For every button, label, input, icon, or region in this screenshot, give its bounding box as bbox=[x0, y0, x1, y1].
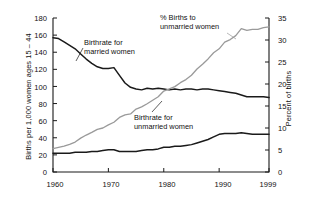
leader-line-unmarried bbox=[152, 101, 162, 112]
axes-layer bbox=[53, 18, 269, 172]
series-layer bbox=[53, 27, 269, 153]
plot-svg bbox=[0, 0, 314, 199]
leader-lines-layer bbox=[76, 33, 236, 112]
chart-container: Births per 1,000 women ages 15 – 44 Perc… bbox=[0, 0, 314, 199]
series-line-0 bbox=[53, 38, 269, 98]
series-line-2 bbox=[53, 27, 269, 149]
